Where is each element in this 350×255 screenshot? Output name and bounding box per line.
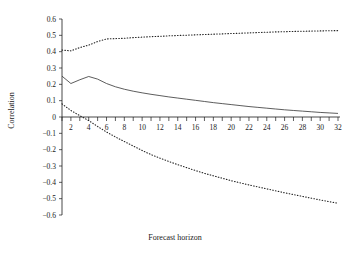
y-tick-label: 0.5 xyxy=(47,31,57,40)
x-tick-label: 18 xyxy=(210,123,218,132)
x-tick-label: 32 xyxy=(334,123,342,132)
x-tick-label: 28 xyxy=(299,123,307,132)
x-tick-label: 22 xyxy=(245,123,253,132)
x-tick-label: 2 xyxy=(69,123,73,132)
x-tick-label: 8 xyxy=(122,123,126,132)
x-tick-label: 20 xyxy=(227,123,235,132)
x-axis-ticks: 2468101214161820222426283032 xyxy=(62,117,342,132)
plot-area: −0.6−0.5−0.4−0.3−0.2−0.100.10.20.30.40.5… xyxy=(0,0,350,255)
x-tick-label: 4 xyxy=(87,123,91,132)
y-tick-label: −0.5 xyxy=(42,194,56,203)
y-tick-label: 0.3 xyxy=(47,64,57,73)
x-tick-label: 12 xyxy=(156,123,164,132)
y-tick-label: −0.3 xyxy=(42,162,56,171)
series-solid xyxy=(62,76,338,113)
y-tick-label: −0.4 xyxy=(42,178,56,187)
y-tick-label: 0.1 xyxy=(47,96,57,105)
y-axis-ticks: −0.6−0.5−0.4−0.3−0.2−0.100.10.20.30.40.5… xyxy=(42,15,62,220)
x-tick-label: 14 xyxy=(174,123,182,132)
y-tick-label: 0.2 xyxy=(47,80,57,89)
y-tick-label: 0 xyxy=(52,113,56,122)
x-tick-label: 16 xyxy=(192,123,200,132)
x-tick-label: 30 xyxy=(316,123,324,132)
y-tick-label: 0.4 xyxy=(47,47,57,56)
y-tick-label: −0.1 xyxy=(42,129,56,138)
series-dotted xyxy=(62,31,338,51)
x-axis-title: Forecast horizon xyxy=(0,233,350,242)
series-dotted xyxy=(62,104,338,203)
y-axis-title: Correlation xyxy=(7,75,16,147)
correlation-forecast-chart: Correlation Forecast horizon −0.6−0.5−0.… xyxy=(0,0,350,255)
y-tick-label: −0.2 xyxy=(42,145,56,154)
x-tick-label: 10 xyxy=(138,123,146,132)
y-tick-label: 0.6 xyxy=(47,15,57,24)
x-tick-label: 26 xyxy=(281,123,289,132)
y-tick-label: −0.6 xyxy=(42,211,56,220)
x-tick-label: 24 xyxy=(263,123,271,132)
